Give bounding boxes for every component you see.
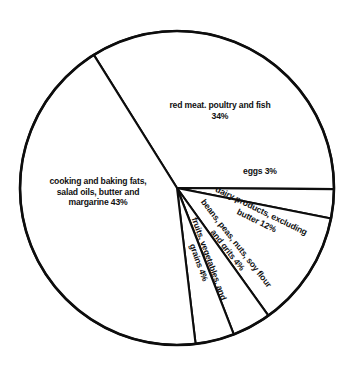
pie-chart-svg	[0, 0, 352, 368]
pie-slice-group	[20, 31, 334, 345]
pie-chart-figure: red meat. poultry and fish 34% eggs 3% d…	[0, 0, 352, 368]
